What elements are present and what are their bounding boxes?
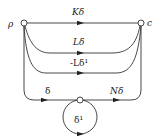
node-label-target: c [147, 18, 152, 28]
edge-label-third: -Lδ¹ [70, 58, 88, 68]
node-target [138, 20, 144, 26]
signal-flow-graph: Kδ Lδ -Lδ¹ δ Nδ δ¹ ρ c [0, 0, 159, 138]
edge-third: -Lδ¹ [24, 26, 141, 75]
edge-label-top: Kδ [71, 7, 84, 17]
edge-label-outer-left: δ [45, 86, 50, 96]
edge-label-loop: δ¹ [74, 115, 83, 125]
edge-self-loop: δ¹ [63, 100, 97, 136]
edge-top: Kδ [27, 7, 138, 25]
node-middle [77, 97, 83, 103]
arrow-right-icon [113, 98, 120, 102]
edge-label-second: Lδ [72, 37, 84, 47]
arrow-right-icon [77, 21, 84, 25]
node-source [21, 20, 27, 26]
arrow-right-icon [77, 71, 84, 75]
edge-second: Lδ [25, 26, 140, 55]
node-label-source: ρ [7, 19, 14, 29]
arrow-right-icon [41, 98, 48, 102]
arrow-right-icon [77, 51, 84, 55]
edge-label-outer-right: Nδ [109, 86, 123, 96]
arrow-right-icon [77, 132, 84, 136]
